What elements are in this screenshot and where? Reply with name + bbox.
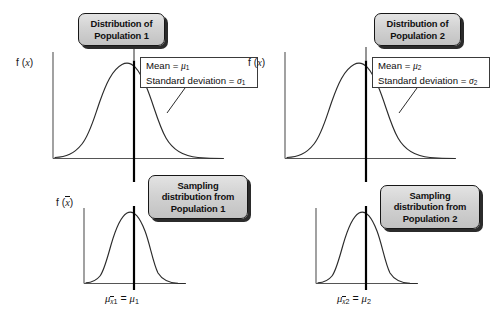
callout-line-1: Distribution of [387, 18, 449, 29]
callout-sampling-distribution-2: Sampling distribution from Population 2 [380, 185, 480, 229]
x-axis-label-bottom-left: μx1 = μ1 [105, 292, 139, 306]
callout-line-3: Population 2 [403, 213, 457, 224]
sampling-distribution-1-curve [86, 212, 185, 283]
annotation-mean-line: Mean = μ2 [378, 60, 485, 75]
y-axis-label-top-right: f (x) [248, 57, 265, 68]
annotation-sd-line: Standard deviation = σ2 [378, 75, 485, 90]
callout-line-2: Population 2 [390, 30, 444, 41]
callout-line-2: distribution from [162, 191, 234, 202]
y-axis-label-top-left: f (x) [16, 57, 33, 68]
annotation-leader-top-left [167, 88, 185, 113]
annotation-population-2: Mean = μ2 Standard deviation = σ2 [372, 57, 490, 88]
annotation-population-1: Mean = μ1 Standard deviation = σ1 [140, 57, 258, 88]
callout-distribution-population-1: Distribution of Population 1 [78, 13, 165, 46]
callout-line-1: Distribution of [91, 18, 153, 29]
annotation-sd-line: Standard deviation = σ1 [146, 75, 253, 90]
statistics-diagram: Distribution of Population 1 f (x) Mean … [0, 0, 504, 319]
callout-sampling-distribution-1: Sampling distribution from Population 1 [148, 175, 248, 219]
annotation-leader-top-right [399, 88, 417, 113]
callout-line-2: Population 1 [94, 30, 148, 41]
callout-line-3: Population 1 [171, 203, 225, 214]
callout-distribution-population-2: Distribution of Population 2 [374, 13, 461, 46]
x-axis-label-bottom-right: μx2 = μ2 [337, 292, 371, 306]
annotation-mean-line: Mean = μ1 [146, 60, 253, 75]
y-axis-label-bottom-left: f (x) [56, 197, 73, 208]
callout-line-1: Sampling [410, 190, 451, 201]
callout-line-1: Sampling [178, 180, 219, 191]
diagram-vector-layer [0, 0, 504, 319]
callout-line-2: distribution from [394, 201, 466, 212]
